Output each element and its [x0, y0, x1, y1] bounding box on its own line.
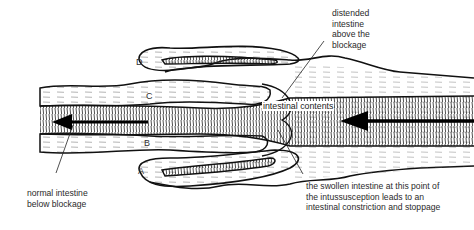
label-line: blockage	[332, 40, 370, 51]
fold-D	[139, 46, 299, 70]
label-line: normal intestine	[27, 188, 88, 199]
layer-letter-c: C	[146, 91, 153, 101]
fold-C	[40, 80, 270, 106]
label-line: intestine	[332, 19, 370, 30]
normal-intestine-label: normal intestine below blockage	[27, 188, 88, 209]
label-line: the swollen intestine at this point of	[306, 181, 440, 192]
intestinal-contents-label: intestinal contents	[262, 101, 334, 111]
layer-letter-d: D	[136, 57, 143, 67]
layer-letter-b: B	[144, 138, 150, 148]
distended-intestine-label: distended intestine above the blockage	[332, 8, 370, 50]
swollen-intestine-label: the swollen intestine at this point of t…	[306, 181, 440, 213]
label-line: intestinal constriction and stoppage	[306, 202, 440, 213]
layer-letter-a: A	[138, 166, 144, 176]
fold-A	[139, 150, 298, 186]
label-line: above the	[332, 29, 370, 40]
label-line: below blockage	[27, 199, 88, 210]
label-line: the intussusception leads to an	[306, 192, 440, 203]
intussusception-diagram: D C B A intestinal contents distended in…	[0, 0, 474, 230]
label-line: distended	[332, 8, 370, 19]
